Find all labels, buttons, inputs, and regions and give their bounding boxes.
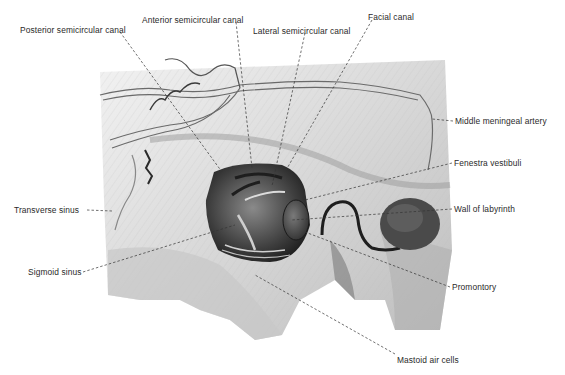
- label-lateral-semicircular-canal: Lateral semicircular canal: [253, 26, 351, 36]
- label-fenestra-vestibuli: Fenestra vestibuli: [454, 158, 521, 168]
- label-posterior-semicircular-canal: Posterior semicircular canal: [20, 25, 126, 35]
- label-sigmoid-sinus: Sigmoid sinus: [28, 267, 81, 277]
- label-anterior-semicircular-canal: Anterior semicircular canal: [142, 15, 243, 25]
- label-transverse-sinus: Transverse sinus: [14, 205, 79, 215]
- label-mastoid-air-cells: Mastoid air cells: [397, 355, 459, 365]
- label-wall-of-labyrinth: Wall of labyrinth: [454, 204, 515, 214]
- label-promontory: Promontory: [452, 282, 496, 292]
- labyrinth-cavity: [206, 164, 310, 262]
- label-facial-canal: Facial canal: [368, 12, 414, 22]
- label-middle-meningeal-artery: Middle meningeal artery: [455, 116, 547, 126]
- temporal-bone-illustration: [0, 0, 565, 375]
